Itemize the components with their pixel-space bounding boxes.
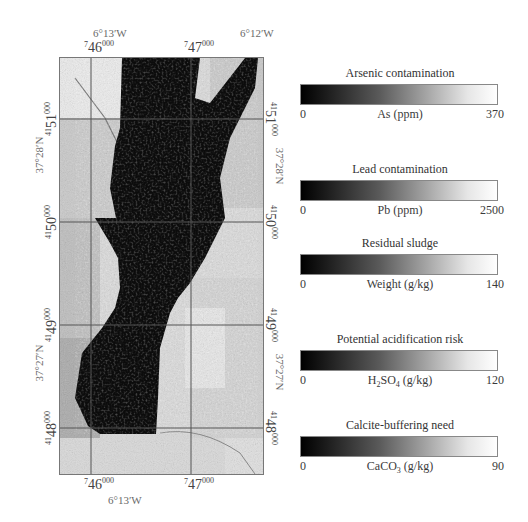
- color-ramp-bar: [300, 436, 498, 457]
- legend-title: Arsenic contamination: [300, 66, 500, 81]
- legend-title: Calcite-buffering need: [300, 418, 500, 433]
- legend-unit: CaCO3 (g/kg): [300, 459, 500, 475]
- right-northing-tick-4148000: 4148000: [262, 398, 278, 458]
- legend-max: 2500: [480, 203, 504, 218]
- right-latitude-label-1: 37°28′N: [274, 141, 286, 191]
- right-northing-tick-4149000: 4149000: [262, 295, 278, 355]
- right-northing-tick-4151000: 4151000: [262, 89, 278, 149]
- legend-max: 90: [492, 459, 504, 474]
- right-latitude-label-2: 37°27′N: [274, 347, 286, 397]
- top-easting-tick-746000: 746000: [84, 40, 114, 56]
- top-easting-tick-747000: 747000: [184, 40, 214, 56]
- top-longitude-label-2: 6°12′W: [240, 27, 274, 39]
- map-imagery: [60, 58, 263, 474]
- bottom-easting-tick-747000: 747000: [184, 477, 214, 493]
- color-ramp-bar: [300, 350, 498, 371]
- legend-unit: Pb (ppm): [300, 203, 500, 218]
- legend-title: Potential acidification risk: [300, 332, 500, 347]
- left-northing-tick-4150000: 4150000: [44, 192, 60, 252]
- legend-max: 370: [486, 107, 504, 122]
- color-ramp-bar: [300, 180, 498, 201]
- satellite-map: [59, 57, 264, 475]
- legend-unit: As (ppm): [300, 107, 500, 122]
- left-northing-tick-4149000: 4149000: [44, 295, 60, 355]
- color-ramp-bar: [300, 84, 498, 105]
- left-northing-tick-4151000: 4151000: [44, 89, 60, 149]
- legend-title: Lead contamination: [300, 162, 500, 177]
- legend-max: 140: [486, 277, 504, 292]
- color-ramp-bar: [300, 254, 498, 275]
- left-northing-tick-4148000: 4148000: [44, 398, 60, 458]
- legend-title: Residual sludge: [300, 236, 500, 251]
- bottom-longitude-label: 6°13′W: [108, 494, 142, 506]
- legend-unit: H2SO4 (g/kg): [300, 373, 500, 389]
- right-northing-tick-4150000: 4150000: [262, 192, 278, 252]
- bottom-easting-tick-746000: 746000: [84, 477, 114, 493]
- legend-unit: Weight (g/kg): [300, 277, 500, 292]
- top-longitude-label-1: 6°13′W: [93, 27, 127, 39]
- legend-max: 120: [486, 373, 504, 388]
